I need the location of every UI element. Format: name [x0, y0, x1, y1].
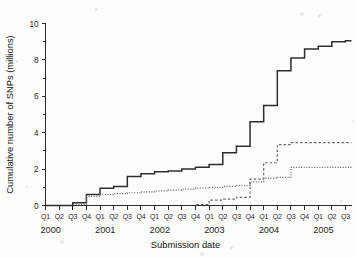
y-axis-tick-label: 4 [34, 129, 39, 138]
x-axis-quarter-label: Q1 [96, 213, 105, 221]
x-axis-quarter-label: Q1 [314, 213, 323, 221]
scan-speck [340, 200, 343, 203]
snp-cumulative-chart: 0246810Q1Q2Q3Q4Q1Q2Q3Q4Q1Q2Q3Q4Q1Q2Q3Q4Q… [0, 0, 356, 258]
x-axis-quarter-label: Q3 [68, 213, 77, 221]
axis-labels-layer: 0246810Q1Q2Q3Q4Q1Q2Q3Q4Q1Q2Q3Q4Q1Q2Q3Q4Q… [4, 20, 350, 250]
y-axis-tick-label: 2 [34, 165, 39, 174]
scan-speck [200, 252, 204, 256]
x-axis-quarter-label: Q2 [55, 213, 64, 221]
x-axis-year-label: 2004 [259, 225, 279, 235]
x-axis-quarter-label: Q4 [136, 213, 145, 221]
x-axis-title: Submission date [151, 239, 220, 250]
x-axis-quarter-label: Q2 [327, 213, 336, 221]
y-axis-tick-label: 8 [34, 56, 39, 65]
x-axis-quarter-label: Q2 [109, 213, 118, 221]
x-axis-quarter-label: Q3 [177, 213, 186, 221]
y-axis-tick-label: 6 [34, 92, 39, 101]
chart-figure: 0246810Q1Q2Q3Q4Q1Q2Q3Q4Q1Q2Q3Q4Q1Q2Q3Q4Q… [0, 0, 356, 258]
scan-speck [60, 240, 64, 244]
x-axis-quarter-label: Q2 [273, 213, 282, 221]
y-axis-tick-label: 0 [34, 202, 39, 211]
series-line-dotted [46, 167, 352, 205]
x-axis-quarter-label: Q3 [232, 213, 241, 221]
y-axis-title: Cumulative number of SNPs (millions) [4, 35, 15, 193]
x-axis-quarter-label: Q3 [341, 213, 350, 221]
x-axis-year-label: 2002 [150, 225, 170, 235]
x-axis-year-label: 2005 [313, 225, 333, 235]
scan-speck [15, 60, 18, 63]
scan-speck [300, 12, 304, 16]
scan-speck [230, 246, 233, 249]
x-axis-quarter-label: Q1 [150, 213, 159, 221]
series-layer [46, 41, 352, 206]
x-axis-quarter-label: Q1 [205, 213, 214, 221]
x-axis-quarter-label: Q1 [259, 213, 268, 221]
x-axis-quarter-label: Q2 [218, 213, 227, 221]
scan-speck [95, 8, 98, 11]
x-axis-quarter-label: Q2 [164, 213, 173, 221]
y-axis-tick-label: 10 [29, 20, 39, 29]
x-axis-year-label: 2001 [95, 225, 115, 235]
x-axis-quarter-label: Q4 [82, 213, 91, 221]
series-line-solid [46, 41, 352, 206]
x-axis-quarter-label: Q4 [191, 213, 200, 221]
x-axis-year-label: 2003 [204, 225, 224, 235]
x-axis-quarter-label: Q1 [41, 213, 50, 221]
x-axis-quarter-label: Q4 [300, 213, 309, 221]
x-axis-quarter-label: Q3 [123, 213, 132, 221]
x-axis-year-label: 2000 [41, 225, 61, 235]
scan-speck [318, 14, 321, 17]
x-axis-quarter-label: Q3 [286, 213, 295, 221]
x-axis-quarter-label: Q4 [246, 213, 255, 221]
